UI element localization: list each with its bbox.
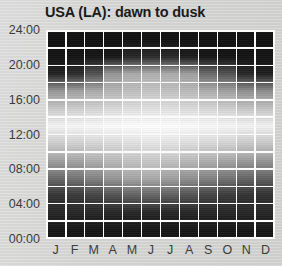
x-axis-tick: D xyxy=(256,241,275,261)
chart-page: USA (LA): dawn to dusk 00:0004:0008:0012… xyxy=(0,0,282,266)
heatmap-cell xyxy=(180,135,197,151)
heatmap-cell xyxy=(218,170,235,186)
y-axis-tick: 00:00 xyxy=(9,232,40,246)
heatmap-cell xyxy=(161,170,178,186)
heatmap-cell xyxy=(218,118,235,134)
heatmap-cell xyxy=(237,49,254,65)
heatmap-cell xyxy=(104,170,121,186)
heatmap-cell xyxy=(85,187,102,203)
x-axis-tick: A xyxy=(180,241,199,261)
heatmap-cell xyxy=(142,135,159,151)
heatmap-cell xyxy=(67,170,84,186)
heatmap-cell xyxy=(123,101,140,117)
heatmap-cell xyxy=(104,32,121,48)
heatmap-cell xyxy=(161,118,178,134)
heatmap-cell xyxy=(237,187,254,203)
heatmap-cell xyxy=(104,101,121,117)
heatmap-cell xyxy=(123,170,140,186)
heatmap-cell xyxy=(67,66,84,82)
heatmap-cell xyxy=(142,101,159,117)
heatmap-cell xyxy=(67,222,84,238)
heatmap-cell xyxy=(218,153,235,169)
heatmap-cell xyxy=(142,66,159,82)
heatmap-cell xyxy=(48,66,65,82)
heatmap-cell xyxy=(180,101,197,117)
heatmap-cell xyxy=(85,204,102,220)
y-axis-tick: 16:00 xyxy=(9,93,40,107)
heatmap-cell xyxy=(237,204,254,220)
heatmap-cell xyxy=(85,118,102,134)
x-axis-tick: S xyxy=(199,241,218,261)
heatmap-cell xyxy=(256,49,273,65)
heatmap-cell xyxy=(218,66,235,82)
heatmap-cell xyxy=(237,83,254,99)
heatmap-cell xyxy=(256,204,273,220)
heatmap-cell xyxy=(48,135,65,151)
heatmap-cell xyxy=(161,222,178,238)
heatmap-cell xyxy=(123,153,140,169)
x-axis-tick: J xyxy=(141,241,160,261)
y-axis-tick: 12:00 xyxy=(9,128,40,142)
heatmap-cell xyxy=(123,222,140,238)
y-axis-tick: 24:00 xyxy=(9,23,40,37)
heatmap-cell xyxy=(67,135,84,151)
heatmap-cell xyxy=(237,153,254,169)
heatmap-cell xyxy=(256,83,273,99)
heatmap-cell xyxy=(199,118,216,134)
heatmap-cell xyxy=(123,135,140,151)
heatmap-cell xyxy=(218,187,235,203)
heatmap-cell xyxy=(199,66,216,82)
heatmap-cell xyxy=(85,32,102,48)
y-axis-tick: 08:00 xyxy=(9,162,40,176)
heatmap-cell xyxy=(85,135,102,151)
heatmap-cell xyxy=(142,170,159,186)
heatmap-cell xyxy=(48,187,65,203)
x-axis-tick: N xyxy=(237,241,256,261)
y-axis: 00:0004:0008:0012:0016:0020:0024:00 xyxy=(0,30,44,239)
heatmap-cell xyxy=(256,118,273,134)
heatmap-cell xyxy=(48,118,65,134)
heatmap-cell xyxy=(67,32,84,48)
heatmap-cell xyxy=(180,187,197,203)
heatmap-cell xyxy=(180,204,197,220)
heatmap-cell xyxy=(161,66,178,82)
heatmap-cell xyxy=(67,101,84,117)
heatmap-cells xyxy=(46,30,275,239)
heatmap-cell xyxy=(161,187,178,203)
x-axis-tick: J xyxy=(46,241,65,261)
heatmap-cell xyxy=(85,170,102,186)
heatmap-cell xyxy=(104,222,121,238)
heatmap-cell xyxy=(180,118,197,134)
heatmap-cell xyxy=(180,170,197,186)
heatmap-cell xyxy=(85,83,102,99)
heatmap-cell xyxy=(218,49,235,65)
heatmap-cell xyxy=(237,66,254,82)
y-axis-tick: 04:00 xyxy=(9,197,40,211)
heatmap-cell xyxy=(48,153,65,169)
heatmap-cell xyxy=(199,170,216,186)
heatmap-cell xyxy=(199,32,216,48)
x-axis-tick: A xyxy=(103,241,122,261)
heatmap-cell xyxy=(104,204,121,220)
heatmap-cell xyxy=(123,49,140,65)
heatmap-cell xyxy=(199,49,216,65)
heatmap-cell xyxy=(237,170,254,186)
heatmap-cell xyxy=(180,49,197,65)
heatmap-cell xyxy=(199,187,216,203)
chart-title: USA (LA): dawn to dusk xyxy=(45,4,205,20)
heatmap-cell xyxy=(104,66,121,82)
heatmap-cell xyxy=(161,49,178,65)
heatmap-cell xyxy=(48,204,65,220)
heatmap-cell xyxy=(180,153,197,169)
heatmap-cell xyxy=(142,32,159,48)
heatmap-cell xyxy=(85,222,102,238)
heatmap-cell xyxy=(199,135,216,151)
heatmap-cell xyxy=(199,222,216,238)
heatmap-cell xyxy=(180,222,197,238)
heatmap-cell xyxy=(123,83,140,99)
heatmap-cell xyxy=(123,66,140,82)
heatmap-cell xyxy=(161,83,178,99)
heatmap-cell xyxy=(85,49,102,65)
heatmap-cell xyxy=(256,32,273,48)
heatmap-cell xyxy=(104,153,121,169)
